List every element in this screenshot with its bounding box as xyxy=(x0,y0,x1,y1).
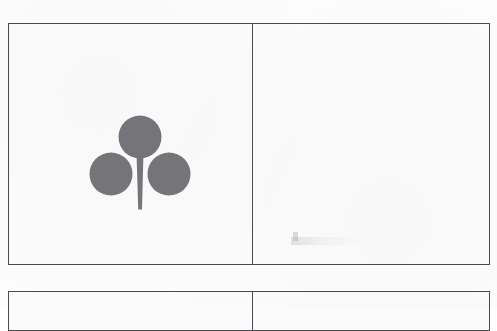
card-row xyxy=(8,291,490,331)
scan-artifact-tick xyxy=(293,232,298,241)
card-cell-club[interactable] xyxy=(9,24,253,264)
card-row xyxy=(8,23,490,265)
scan-artifact-smudge xyxy=(291,237,365,245)
club-suit-icon xyxy=(88,112,192,212)
card-cell-empty-right[interactable] xyxy=(253,24,489,264)
card-cell-empty-bottom-right[interactable] xyxy=(253,292,489,330)
card-cell-empty-bottom-left[interactable] xyxy=(9,292,253,330)
